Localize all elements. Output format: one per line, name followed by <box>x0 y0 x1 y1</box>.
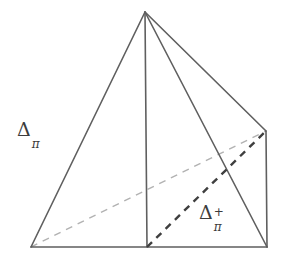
hidden-diagonal-light-dashed-line <box>31 131 266 247</box>
edge-apex-to-bottom-left <box>31 12 145 247</box>
label-delta-pi-plus-superscript: + <box>214 206 224 218</box>
edge-apex-to-right-back <box>145 12 266 131</box>
edge-right-back-to-bottom-right <box>266 131 267 247</box>
edge-apex-to-bottom-center <box>145 12 147 247</box>
label-delta-pi-plus: Δ π + <box>199 203 213 222</box>
label-delta-pi-base: Δ <box>17 118 31 140</box>
pyramid-diagram-svg <box>0 0 283 267</box>
label-delta-pi-plus-base: Δ <box>199 201 213 223</box>
label-delta-pi-plus-subscript: π <box>214 221 222 233</box>
geometry-figure: Δ π Δ π + <box>0 0 283 267</box>
hidden-diagonal-bold-dashed-line <box>147 131 266 247</box>
label-delta-pi-subscript: π <box>32 138 40 150</box>
label-delta-pi: Δ π <box>17 120 31 139</box>
